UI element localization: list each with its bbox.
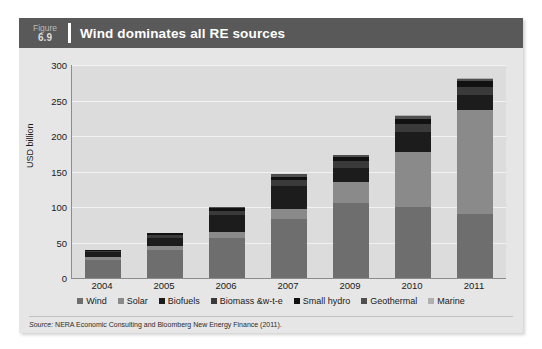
legend-swatch-icon: [118, 298, 124, 304]
bar-segment[interactable]: [271, 209, 307, 219]
x-axis-ticks: 2004200520062007200920102011: [71, 280, 505, 291]
bar-segment[interactable]: [333, 161, 369, 168]
legend-swatch-icon: [211, 298, 217, 304]
bar-segment[interactable]: [333, 168, 369, 182]
y-tick-label: 250: [51, 95, 67, 106]
bar-segment[interactable]: [395, 152, 431, 207]
y-tick-label: 200: [51, 131, 67, 142]
plot-canvas: [71, 65, 506, 279]
bar-column[interactable]: [85, 65, 121, 278]
bar-column[interactable]: [395, 65, 431, 278]
source-prefix: Source:: [29, 321, 53, 328]
x-tick-label: 2009: [332, 280, 368, 291]
figure-number-block: Figure 6.9: [24, 23, 66, 43]
plot-area-wrapper: USD billion 050100150200250300 200420052…: [19, 48, 523, 333]
bars-group: [72, 65, 506, 278]
legend-swatch-icon: [159, 298, 165, 304]
legend-item[interactable]: Geothermal: [361, 296, 417, 306]
legend-label: Geothermal: [370, 296, 417, 306]
legend-label: Marine: [437, 296, 465, 306]
figure-title: Wind dominates all RE sources: [80, 26, 285, 41]
source-divider: [29, 316, 513, 317]
bar-segment[interactable]: [395, 132, 431, 152]
y-tick-label: 100: [51, 202, 67, 213]
legend-label: Solar: [127, 296, 148, 306]
legend-item[interactable]: Solar: [118, 296, 148, 306]
x-tick-label: 2010: [394, 280, 430, 291]
legend-item[interactable]: Small hydro: [294, 296, 351, 306]
x-tick-label: 2006: [208, 280, 244, 291]
bar-column[interactable]: [457, 65, 493, 278]
y-tick-label: 300: [51, 60, 67, 71]
figure-screenshot: Figure 6.9 Wind dominates all RE sources…: [0, 0, 542, 349]
bar-segment[interactable]: [209, 238, 245, 278]
legend-label: Wind: [86, 296, 107, 306]
x-tick-label: 2007: [270, 280, 306, 291]
legend-swatch-icon: [361, 298, 367, 304]
bar-segment[interactable]: [271, 186, 307, 209]
bar-segment[interactable]: [395, 207, 431, 278]
legend-swatch-icon: [77, 298, 83, 304]
bar-column[interactable]: [209, 65, 245, 278]
legend-item[interactable]: Biofuels: [159, 296, 200, 306]
bar-column[interactable]: [271, 65, 307, 278]
y-tick-label: 50: [56, 237, 67, 248]
figure-card: Figure 6.9 Wind dominates all RE sources…: [19, 18, 523, 333]
bar-segment[interactable]: [457, 95, 493, 110]
legend-label: Small hydro: [303, 296, 351, 306]
title-divider-rule: [68, 23, 71, 43]
legend-item[interactable]: Biomass &w-t-e: [211, 296, 283, 306]
figure-number: 6.9: [24, 33, 66, 43]
bar-segment[interactable]: [85, 260, 121, 278]
x-tick-label: 2005: [146, 280, 182, 291]
legend-label: Biofuels: [168, 296, 200, 306]
source-text: NERA Economic Consulting and Bloomberg N…: [53, 321, 282, 328]
y-tick-label: 150: [51, 166, 67, 177]
legend-item[interactable]: Marine: [428, 296, 465, 306]
bar-segment[interactable]: [457, 87, 493, 95]
legend-label: Biomass &w-t-e: [220, 296, 283, 306]
bar-column[interactable]: [147, 65, 183, 278]
y-axis-ticks: 050100150200250300: [37, 65, 67, 278]
bar-segment[interactable]: [271, 219, 307, 278]
x-tick-label: 2011: [456, 280, 492, 291]
bar-segment[interactable]: [147, 238, 183, 247]
y-tick-label: 0: [62, 273, 67, 284]
legend-swatch-icon: [428, 298, 434, 304]
bar-segment[interactable]: [395, 124, 431, 133]
legend-swatch-icon: [294, 298, 300, 304]
legend-item[interactable]: Wind: [77, 296, 107, 306]
bar-column[interactable]: [333, 65, 369, 278]
y-axis-label: USD billion: [25, 123, 35, 168]
source-note: Source: NERA Economic Consulting and Blo…: [29, 321, 282, 328]
bar-segment[interactable]: [333, 203, 369, 278]
figure-title-bar: Figure 6.9 Wind dominates all RE sources: [19, 18, 523, 48]
bar-segment[interactable]: [457, 214, 493, 278]
x-tick-label: 2004: [84, 280, 120, 291]
bar-segment[interactable]: [147, 250, 183, 278]
chart-legend: WindSolarBiofuelsBiomass &w-t-eSmall hyd…: [19, 296, 523, 306]
bar-segment[interactable]: [457, 110, 493, 214]
bar-segment[interactable]: [333, 182, 369, 203]
bar-segment[interactable]: [209, 215, 245, 232]
